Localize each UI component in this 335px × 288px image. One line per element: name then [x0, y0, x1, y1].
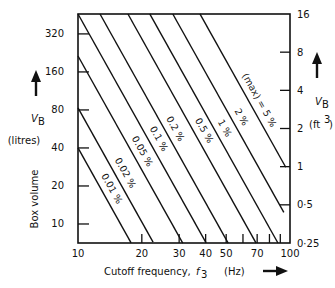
- x-axis-title: Cutoff frequency,: [104, 266, 191, 277]
- left-tick-label: 320: [45, 28, 64, 39]
- right-tick-label: 0·25: [297, 238, 319, 249]
- x-axis-symbol-subscript: 3: [201, 269, 207, 280]
- bottom-tick-label: 100: [280, 248, 299, 259]
- x-axis-right-arrow-icon: [263, 266, 288, 276]
- right-tick-label: 1: [297, 161, 303, 172]
- curve-label-7: 2 %: [233, 106, 251, 127]
- curve-label-4: 0.2 %: [164, 114, 187, 143]
- curve-line-3: [78, 14, 206, 243]
- curve-label-5: 0.5 %: [193, 116, 216, 145]
- bottom-tick-label: 70: [251, 248, 264, 259]
- bottom-tick-label: 20: [135, 248, 148, 259]
- right-axis-unit-base: (ft: [309, 119, 320, 130]
- right-tick-label: 2: [297, 123, 303, 134]
- left-tick-label: 160: [45, 66, 64, 77]
- curve-label-6: 1 %: [216, 117, 234, 138]
- left-tick-label: 20: [51, 180, 64, 191]
- right-axis-unit: (ft 3 ): [309, 114, 333, 130]
- bottom-tick-label: 30: [173, 248, 186, 259]
- left-tick-label: 80: [51, 104, 64, 115]
- curve-line-8: [200, 14, 286, 167]
- x-axis-unit: (Hz): [224, 266, 245, 277]
- curve-labels-group: 0.01 %0.02 %0.05 %0.1 %0.2 %0.5 %1 %2 %(…: [99, 71, 279, 206]
- left-tick-label: 10: [51, 218, 64, 229]
- bottom-axis-ticks: 102030405070100: [72, 234, 300, 259]
- right-axis-unit-close: ): [329, 119, 333, 130]
- right-tick-label: 8: [297, 47, 303, 58]
- curve-label-0: 0.01 %: [99, 171, 125, 205]
- right-tick-label: 0·5: [297, 199, 313, 210]
- right-axis-up-arrow-icon: [312, 52, 322, 78]
- left-axis-up-arrow-icon: [31, 70, 41, 96]
- left-axis-ticks: 10204080160320: [45, 28, 89, 229]
- left-axis-title: Box volume: [29, 170, 40, 229]
- bottom-tick-label: 50: [220, 248, 233, 259]
- curve-label-2: 0.05 %: [130, 134, 156, 168]
- bottom-tick-label: 40: [199, 248, 212, 259]
- right-tick-label: 16: [297, 9, 310, 20]
- curve-line-6: [150, 14, 278, 243]
- left-axis-symbol-subscript: B: [38, 116, 45, 127]
- left-axis-unit: (litres): [8, 135, 41, 146]
- left-tick-label: 40: [51, 142, 64, 153]
- bottom-tick-label: 10: [72, 248, 85, 259]
- chart: 0.01 %0.02 %0.05 %0.1 %0.2 %0.5 %1 %2 %(…: [0, 0, 335, 288]
- right-axis-symbol-subscript: B: [322, 99, 329, 110]
- curve-label-3: 0.1 %: [148, 124, 171, 153]
- right-tick-label: 4: [297, 85, 303, 96]
